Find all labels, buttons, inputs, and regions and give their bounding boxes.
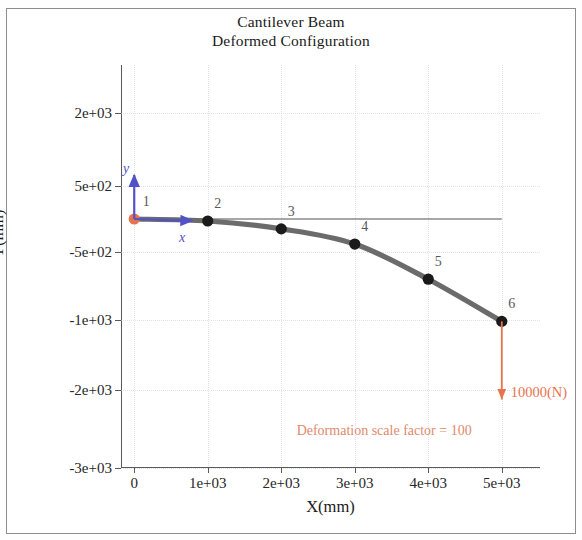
y-axis-tick-label: -2e+03 [69,382,112,399]
beam-node [276,223,287,234]
plot-area: 2e+035e+02-5e+02-1e+03-2e+03-3e+0301e+03… [121,65,540,468]
beam-node-label: 3 [288,204,295,220]
x-axis-tick-label: 5e+03 [483,475,521,492]
y-axis-tick-label: -5e+02 [69,244,112,261]
y-axis-tick-label: 5e+02 [74,178,112,195]
x-axis-tick-label: 4e+03 [409,475,447,492]
y-axis-tick [115,468,121,469]
x-axis-tick-label: 3e+03 [336,475,374,492]
y-axis-title: Y(mm) [0,209,8,258]
beam-node [202,215,213,226]
beam-plot [121,65,540,468]
chart-title-line1: Cantilever Beam [237,13,345,30]
local-y-axis-label: y [123,161,129,177]
chart-title: Cantilever Beam Deformed Configuration [0,12,582,50]
x-axis-title: X(mm) [121,497,540,517]
beam-node [423,274,434,285]
local-x-axis-label: x [179,230,185,246]
deformation-scale-note: Deformation scale factor = 100 [297,423,472,439]
beam-nodes [129,213,508,327]
x-axis-tick-label: 1e+03 [189,475,227,492]
beam-node-label: 6 [508,296,515,312]
beam-node [349,238,360,249]
beam-node-label: 4 [361,219,368,235]
gridline-horizontal [121,468,540,469]
x-axis-tick-label: 0 [130,475,138,492]
x-axis-tick-label: 2e+03 [262,475,300,492]
load-magnitude-label: 10000(N) [511,384,567,401]
y-axis-tick-label: -1e+03 [69,312,112,329]
y-axis-tick-label: -3e+03 [69,460,112,477]
figure-canvas: Cantilever Beam Deformed Configuration Y… [0,0,582,540]
chart-title-line2: Deformed Configuration [0,31,582,50]
beam-node-label: 2 [214,196,221,212]
deformed-beam-curve [134,219,502,321]
beam-node-label: 5 [435,254,442,270]
beam-node-label: 1 [143,194,150,210]
y-axis-tick-label: 2e+03 [74,105,112,122]
